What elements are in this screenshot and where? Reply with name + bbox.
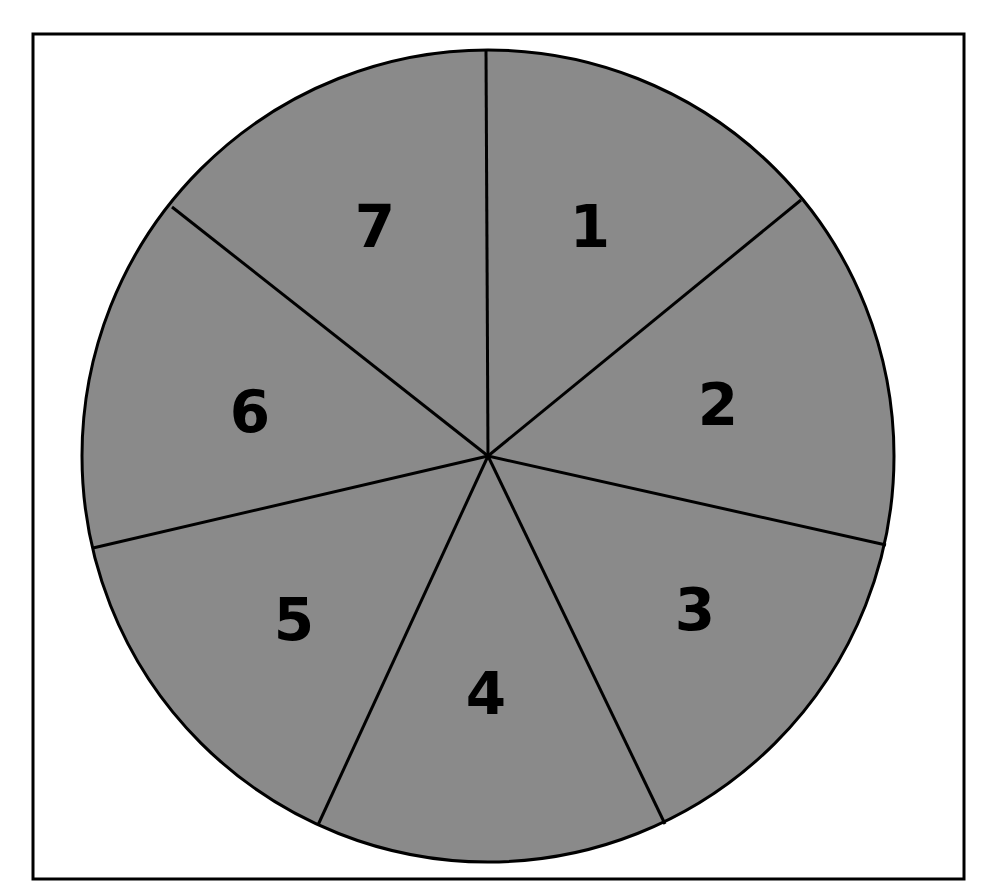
sector-divider-line xyxy=(486,50,488,456)
pie-wheel-diagram: 1 2 3 4 5 6 7 xyxy=(0,0,986,891)
sector-label-1: 1 xyxy=(570,193,610,261)
sector-label-3: 3 xyxy=(675,576,715,644)
sector-label-2: 2 xyxy=(698,371,738,439)
sector-label-5: 5 xyxy=(274,586,314,654)
sector-label-6: 6 xyxy=(230,378,270,446)
sector-label-7: 7 xyxy=(355,193,395,261)
sector-label-4: 4 xyxy=(466,660,506,728)
